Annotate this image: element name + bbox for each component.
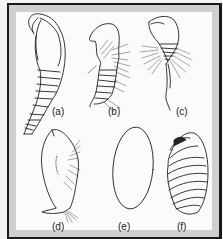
organism-e-drawing [110, 125, 157, 210]
label-d: (d) [52, 221, 64, 232]
organism-b-drawing [88, 24, 130, 112]
label-b: (b) [108, 106, 120, 117]
organism-f-drawing [167, 133, 208, 214]
figure-background: (a) (b) (c) (d) (e) (f) [0, 0, 223, 239]
label-c: (c) [176, 106, 188, 117]
label-e: (e) [118, 221, 130, 232]
organism-d-drawing [41, 129, 80, 222]
label-a: (a) [52, 106, 64, 117]
organism-drawings [0, 0, 223, 239]
label-f: (f) [177, 221, 186, 232]
organism-c-drawing [140, 16, 192, 110]
